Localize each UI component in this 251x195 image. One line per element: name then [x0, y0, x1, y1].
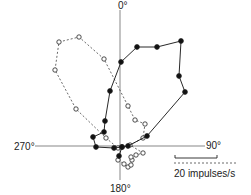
open-data-point	[53, 68, 57, 72]
open-data-point	[141, 151, 145, 155]
filled-data-point	[103, 119, 108, 124]
filled-data-point	[183, 90, 188, 95]
open-data-point	[102, 57, 106, 61]
open-data-point	[129, 163, 133, 167]
open-data-point	[57, 40, 61, 44]
filled-data-point	[119, 60, 124, 65]
label-90deg: 90°	[206, 140, 221, 151]
polar-chart: 0° 90° 180° 270° 20 impulses/s	[0, 0, 251, 195]
open-data-point	[133, 118, 137, 122]
open-data-point	[74, 107, 78, 111]
filled-data-point	[91, 135, 96, 140]
open-data-point	[134, 153, 138, 157]
filled-data-point	[120, 145, 125, 150]
filled-data-point	[117, 154, 122, 159]
filled-data-point	[102, 130, 107, 135]
open-circle-series	[53, 35, 147, 169]
filled-data-point	[108, 89, 113, 94]
filled-data-point	[145, 134, 150, 139]
open-data-point	[104, 136, 108, 140]
filled-data-point	[94, 145, 99, 150]
open-data-point	[126, 104, 130, 108]
open-data-point	[77, 35, 81, 39]
label-0deg: 0°	[118, 0, 128, 11]
filled-data-point	[126, 144, 131, 149]
filled-data-point	[135, 45, 140, 50]
label-180deg: 180°	[110, 183, 131, 194]
open-data-point	[129, 155, 133, 159]
open-data-point	[122, 162, 126, 166]
scale-bar: 20 impulses/s	[174, 155, 236, 179]
filled-data-point	[112, 146, 117, 151]
scale-bar-label: 20 impulses/s	[174, 168, 235, 179]
filled-data-point	[179, 39, 184, 44]
filled-data-point	[155, 45, 160, 50]
label-270deg: 270°	[14, 141, 35, 152]
filled-data-point	[177, 74, 182, 79]
open-data-point	[143, 122, 147, 126]
